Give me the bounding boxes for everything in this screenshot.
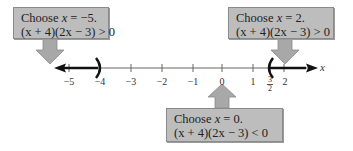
tick-label: −2 xyxy=(157,76,168,87)
callout-text: = 0. xyxy=(220,112,243,126)
callout-line-1: Choose x = 2. xyxy=(236,11,328,25)
tick-label: 1 xyxy=(251,76,256,87)
callout-line-2: (x + 4)(2x − 3) > 0 xyxy=(21,25,103,39)
pointer-arrow-right xyxy=(271,38,299,64)
tick-label: −4 xyxy=(95,76,106,87)
callout-line-1: Choose x = 0. xyxy=(174,112,277,126)
callout-test-middle: Choose x = 0. (x + 4)(2x − 3) < 0 xyxy=(166,108,283,142)
callout-line-2: (x + 4)(2x − 3) > 0 xyxy=(236,25,328,39)
callout-line-2: (x + 4)(2x − 3) < 0 xyxy=(174,126,277,140)
fraction-denominator: 2 xyxy=(268,84,272,93)
callout-text: Choose xyxy=(174,112,215,126)
tick-label: 0 xyxy=(220,76,225,87)
fraction-numerator: 3 xyxy=(268,75,272,84)
tick-label: −3 xyxy=(126,76,137,87)
callout-line-1: Choose x = −5. xyxy=(21,11,103,25)
callout-text: Choose xyxy=(21,11,62,25)
callout-text: = −5. xyxy=(67,11,97,25)
callout-text: = 2. xyxy=(282,11,305,25)
tick-label: −5 xyxy=(64,76,75,87)
pointer-arrow-left xyxy=(36,38,64,64)
axis-variable-label: x xyxy=(320,61,325,73)
tick-label: −1 xyxy=(188,76,199,87)
pointer-arrow-middle xyxy=(208,84,236,108)
callout-test-left: Choose x = −5. (x + 4)(2x − 3) > 0 xyxy=(13,7,109,39)
callout-test-right: Choose x = 2. (x + 4)(2x − 3) > 0 xyxy=(228,7,334,39)
tick-label-fraction: 3 2 xyxy=(267,76,273,93)
callout-text: Choose xyxy=(236,11,277,25)
tick-label: 2 xyxy=(283,76,288,87)
